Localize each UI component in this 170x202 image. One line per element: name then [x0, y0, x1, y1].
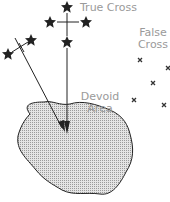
true-cross-label: True Cross — [80, 2, 137, 14]
star-icon — [25, 34, 37, 46]
star-icon — [44, 16, 56, 28]
star-icon — [80, 16, 92, 28]
star-icon — [61, 36, 73, 48]
devoid-area-shape — [18, 102, 133, 195]
false-cross-marks — [132, 58, 170, 107]
devoid-area-label-line2: Area — [80, 103, 120, 115]
false-cross-label-line2: Cross — [136, 39, 170, 51]
star-icon — [2, 48, 14, 60]
star-icon — [61, 1, 73, 13]
